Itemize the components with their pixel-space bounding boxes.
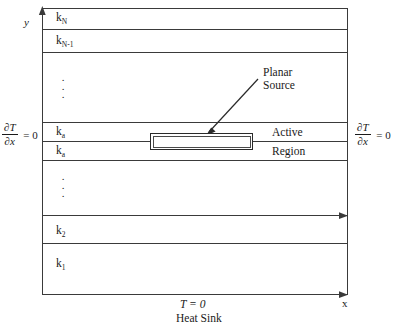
right-bc-fraction: ∂T ∂x: [355, 122, 371, 147]
layer-label-kN-1: kN-1: [56, 35, 73, 49]
figure-canvas: y x kN kN-1 ... ka ka ... k2 k1 Planar S…: [0, 0, 395, 322]
planar-source-leader: [206, 79, 258, 136]
left-bc-denominator: ∂x: [2, 134, 18, 148]
region-label: Region: [272, 145, 305, 157]
arrowhead-mid-right: [339, 212, 348, 219]
upper-ellipsis: ...: [58, 73, 68, 99]
planar-source-label-line2: Source: [263, 79, 295, 92]
planar-source-label-line1: Planar: [263, 66, 295, 79]
left-bc-equals: = 0: [20, 129, 37, 141]
layer-label-ka-upper: ka: [56, 126, 65, 140]
right-bc-equals: = 0: [373, 129, 390, 141]
planar-source-inner: [153, 136, 251, 148]
left-bc-numerator: ∂T: [2, 122, 18, 134]
layer-label-kN: kN: [56, 12, 67, 26]
temperature-bc-label: T = 0: [180, 298, 205, 310]
layer-label-ka-lower: ka: [56, 145, 65, 159]
right-bc-denominator: ∂x: [355, 134, 371, 148]
lower-ellipsis: ...: [58, 172, 68, 198]
boundary-condition-right: ∂T ∂x = 0: [355, 122, 391, 147]
active-label: Active: [272, 126, 303, 138]
boundary-condition-left: ∂T ∂x = 0: [2, 122, 38, 147]
y-axis-label: y: [24, 16, 29, 28]
layer-label-k2: k2: [56, 225, 66, 239]
x-axis-label: x: [342, 297, 348, 309]
arrowhead-y-axis: [39, 6, 46, 15]
left-bc-fraction: ∂T ∂x: [2, 122, 18, 147]
planar-source-rect: [150, 133, 253, 150]
layer-label-k1: k1: [56, 258, 66, 272]
planar-source-label: Planar Source: [263, 66, 295, 92]
right-bc-numerator: ∂T: [355, 122, 371, 134]
heat-sink-label: Heat Sink: [176, 312, 222, 322]
